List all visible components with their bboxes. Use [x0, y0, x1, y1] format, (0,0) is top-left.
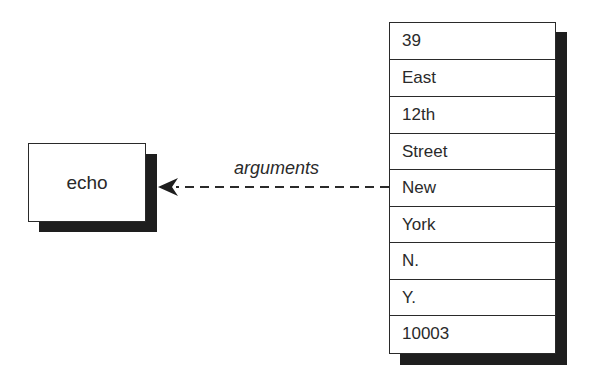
- edge-label: arguments: [234, 158, 319, 179]
- argument-item: Y.: [390, 280, 555, 316]
- argument-item: 12th: [390, 97, 555, 134]
- arrowhead-icon: [158, 178, 178, 196]
- argument-item: East: [390, 60, 555, 97]
- argument-item: York: [390, 207, 555, 243]
- argument-item: 39: [390, 23, 555, 60]
- argument-item: New: [390, 170, 555, 207]
- argument-item: 10003: [390, 316, 555, 352]
- argument-item: Street: [390, 134, 555, 170]
- argument-item: N.: [390, 243, 555, 280]
- argument-list: 39 East 12th Street New York N. Y. 10003: [389, 22, 556, 354]
